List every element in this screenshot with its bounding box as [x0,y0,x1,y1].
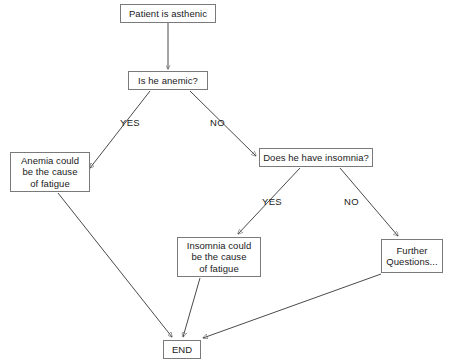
node-is-he-anemic[interactable]: Is he anemic? [128,71,208,90]
node-insomnia-cause-of-fatigue[interactable]: Insomnia could be the cause of fatigue [177,237,261,277]
flowchart-canvas: Patient is asthenic Is he anemic? Anemia… [0,0,449,364]
edge-further-to-end [203,274,381,338]
node-end[interactable]: END [163,340,201,359]
node-further-questions[interactable]: Further Questions... [381,239,443,273]
edge-label-anemic-no: NO [210,117,225,128]
edge-label-anemic-yes: YES [120,117,140,128]
node-does-he-have-insomnia[interactable]: Does he have insomnia? [259,148,373,167]
node-patient-is-asthenic[interactable]: Patient is asthenic [120,4,216,23]
edge-anemia-to-end [58,193,172,337]
edge-anemic-yes-to-anemia [90,91,150,168]
node-anemia-cause-of-fatigue[interactable]: Anemia could be the cause of fatigue [10,152,90,192]
edge-label-insomnia-yes: YES [262,196,282,207]
edge-label-insomnia-no: NO [344,196,359,207]
edge-insomnia-to-end [183,278,200,337]
